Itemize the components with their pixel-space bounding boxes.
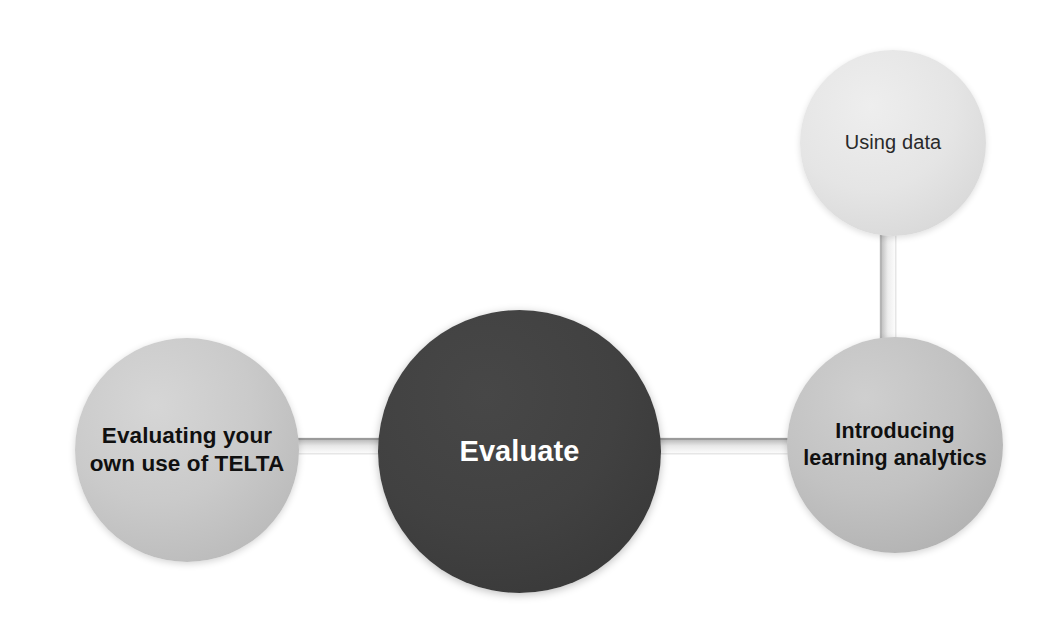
node-evaluate[interactable]: Evaluate	[378, 310, 661, 593]
diagram-canvas: Evaluating your own use of TELTA Evaluat…	[0, 0, 1061, 626]
node-label: Using data	[839, 130, 948, 155]
node-evaluating-your-own-use-of-telta[interactable]: Evaluating your own use of TELTA	[75, 338, 299, 562]
connector-center-to-right	[652, 438, 794, 454]
connector-right-to-top	[880, 222, 896, 340]
node-label: Evaluate	[453, 433, 585, 470]
connector-left-to-center	[290, 438, 386, 454]
node-label: Introducing learning analytics	[787, 418, 1003, 472]
node-using-data[interactable]: Using data	[800, 50, 986, 236]
node-label: Evaluating your own use of TELTA	[75, 422, 299, 479]
node-introducing-learning-analytics[interactable]: Introducing learning analytics	[787, 337, 1003, 553]
